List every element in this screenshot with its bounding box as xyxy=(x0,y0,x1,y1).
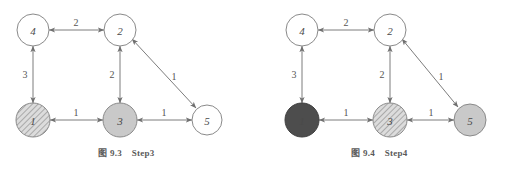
edge-label-3-5: 1 xyxy=(429,107,434,118)
figure-9-3: 4 2 1 3 5 2 3 2 1 1 1 图 9.3 Step3 xyxy=(0,0,253,175)
caption-step: Step4 xyxy=(385,148,408,158)
node-3-label: 3 xyxy=(116,115,123,127)
caption-number: 图 9.3 xyxy=(98,148,122,158)
edge-label-4-2: 2 xyxy=(344,17,349,28)
node-2-label: 2 xyxy=(117,25,123,37)
edge-label-2-3: 2 xyxy=(110,69,115,80)
figure-9-4-caption: 图 9.4 Step4 xyxy=(253,146,506,159)
node-5-label: 5 xyxy=(467,115,473,127)
figure-9-3-caption: 图 9.3 Step3 xyxy=(0,146,253,159)
figure-9-4: 4 2 1 3 5 2 3 2 1 1 1 图 9.4 Step4 xyxy=(253,0,506,175)
edge-label-1-3: 1 xyxy=(344,107,349,118)
node-5-label: 5 xyxy=(204,115,210,127)
node-1-label: 1 xyxy=(30,115,36,127)
edge-2-5 xyxy=(402,39,458,107)
edge-label-4-1: 3 xyxy=(23,69,28,80)
edge-label-4-2: 2 xyxy=(74,17,79,28)
node-1-label: 1 xyxy=(299,115,305,127)
edge-label-2-3: 2 xyxy=(380,69,385,80)
node-4-label: 4 xyxy=(299,25,305,37)
figure-pair: 4 2 1 3 5 2 3 2 1 1 1 图 9.3 Step3 xyxy=(0,0,506,175)
edge-label-1-3: 1 xyxy=(74,107,79,118)
edge-label-2-5: 1 xyxy=(439,71,444,82)
caption-step: Step3 xyxy=(132,148,155,158)
caption-number: 图 9.4 xyxy=(351,148,375,158)
edge-label-2-5: 1 xyxy=(172,71,177,82)
edge-label-3-5: 1 xyxy=(162,107,167,118)
node-group xyxy=(285,14,486,137)
edge-2-5 xyxy=(132,39,196,108)
node-2-label: 2 xyxy=(387,25,393,37)
edge-label-4-1: 3 xyxy=(292,69,297,80)
node-3-label: 3 xyxy=(386,115,393,127)
node-4-label: 4 xyxy=(30,25,36,37)
